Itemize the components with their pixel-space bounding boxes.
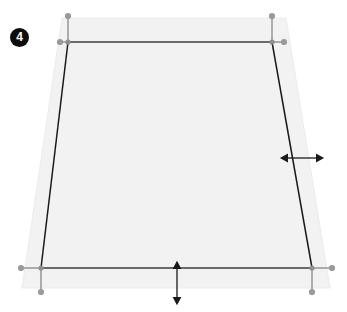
step-number-badge: 4 [10,28,29,47]
handle-corner-node-icon[interactable] [38,265,43,270]
handle-dot-icon[interactable] [281,39,287,45]
handle-dot-icon[interactable] [38,289,44,295]
trapezoid-diagram [0,0,347,312]
handle-dot-icon[interactable] [309,289,315,295]
handle-dot-icon[interactable] [269,13,275,19]
handle-corner-node-icon[interactable] [269,39,274,44]
projection-surface [22,18,330,288]
handle-corner-node-icon[interactable] [65,39,70,44]
handle-dot-icon[interactable] [57,39,63,45]
handle-dot-icon[interactable] [65,13,71,19]
handle-corner-node-icon[interactable] [309,265,314,270]
handle-dot-icon[interactable] [18,265,24,271]
handle-dot-icon[interactable] [329,265,335,271]
diagram-stage: 4 [0,0,347,312]
